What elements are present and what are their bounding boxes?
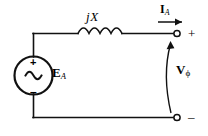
terminal-voltage-subscript: ϕ bbox=[185, 68, 190, 78]
internal-emf-label: EA bbox=[52, 66, 66, 80]
voltage-arrow-icon bbox=[166, 41, 174, 113]
current-arrow-icon bbox=[158, 19, 182, 26]
terminal-polarity-positive: + bbox=[188, 27, 195, 40]
reactance-label-x: X bbox=[90, 9, 98, 24]
terminal-polarity-negative: – bbox=[188, 110, 195, 123]
source-polarity-negative: – bbox=[30, 86, 37, 98]
terminal-voltage-label: Vϕ bbox=[176, 63, 190, 78]
internal-emf-subscript: A bbox=[61, 71, 66, 81]
armature-current-subscript: A bbox=[165, 8, 170, 17]
sine-wave-icon bbox=[26, 72, 42, 80]
terminal-voltage-symbol: V bbox=[176, 62, 185, 77]
reactance-label: jX bbox=[86, 10, 98, 23]
internal-emf-symbol: E bbox=[52, 65, 61, 80]
inductor-coil bbox=[78, 28, 122, 34]
armature-current-label: IA bbox=[160, 3, 170, 17]
circuit-diagram-canvas: jX IA EA Vϕ + – + – bbox=[0, 0, 208, 136]
terminal-node-positive bbox=[174, 30, 180, 36]
source-polarity-positive: + bbox=[30, 57, 36, 68]
terminal-node-negative bbox=[174, 114, 180, 120]
